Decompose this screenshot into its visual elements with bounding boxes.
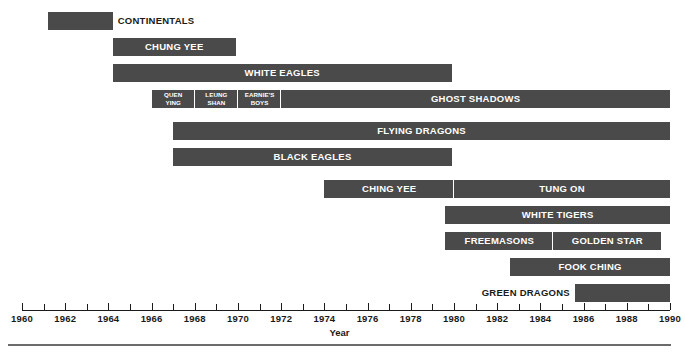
axis-tick-label: 1984 bbox=[520, 313, 560, 324]
axis-tick-minor bbox=[173, 304, 174, 310]
axis-tick-minor bbox=[44, 304, 45, 310]
x-axis: 1960196219641966196819701972197419761978… bbox=[0, 300, 679, 358]
axis-tick bbox=[108, 303, 109, 310]
axis-tick-label: 1962 bbox=[45, 313, 85, 324]
axis-tick-minor bbox=[432, 304, 433, 310]
timeline-bar-label: BLACK EAGLES bbox=[173, 148, 452, 166]
axis-tick-label: 1964 bbox=[88, 313, 128, 324]
axis-tick-minor bbox=[605, 304, 606, 310]
axis-tick-minor bbox=[519, 304, 520, 310]
timeline-row: WHITE EAGLES bbox=[0, 64, 679, 82]
timeline-row: FREEMASONSGOLDEN STAR bbox=[0, 232, 679, 250]
caption-divider bbox=[8, 344, 671, 346]
timeline-bar-label: EARNIE'SBOYS bbox=[238, 90, 281, 109]
timeline-bar-label: LEUNGSHAN bbox=[195, 90, 238, 109]
axis-tick bbox=[584, 303, 585, 310]
axis-tick-label: 1970 bbox=[218, 313, 258, 324]
timeline-bar-label: GOLDEN STAR bbox=[553, 232, 661, 250]
axis-tick-minor bbox=[130, 304, 131, 310]
timeline-row: FOOK CHING bbox=[0, 258, 679, 276]
axis-tick-minor bbox=[346, 304, 347, 310]
axis-tick bbox=[324, 303, 325, 310]
timeline-row: CONTINENTALS bbox=[0, 12, 679, 30]
timeline-bar-label: WHITE TIGERS bbox=[445, 206, 670, 224]
axis-tick-minor bbox=[648, 304, 649, 310]
axis-tick-minor bbox=[216, 304, 217, 310]
axis-tick-label: 1966 bbox=[132, 313, 172, 324]
axis-tick-minor bbox=[476, 304, 477, 310]
axis-tick bbox=[152, 303, 153, 310]
axis-tick bbox=[411, 303, 412, 310]
axis-tick-label: 1980 bbox=[434, 313, 474, 324]
axis-tick-minor bbox=[303, 304, 304, 310]
axis-tick-label: 1976 bbox=[348, 313, 388, 324]
axis-tick-label: 1990 bbox=[650, 313, 685, 324]
axis-tick bbox=[670, 303, 671, 310]
axis-tick bbox=[195, 303, 196, 310]
axis-line bbox=[22, 310, 670, 311]
axis-title: Year bbox=[0, 327, 679, 338]
axis-tick bbox=[238, 303, 239, 310]
axis-tick bbox=[65, 303, 66, 310]
axis-tick-minor bbox=[562, 304, 563, 310]
timeline-bar-label: FLYING DRAGONS bbox=[173, 122, 670, 140]
timeline-plot-area: CONTINENTALSCHUNG YEEWHITE EAGLESQUENYIN… bbox=[0, 0, 679, 300]
axis-tick-label: 1974 bbox=[304, 313, 344, 324]
axis-tick bbox=[22, 303, 23, 310]
axis-tick-label: 1978 bbox=[391, 313, 431, 324]
timeline-bar[interactable] bbox=[48, 12, 113, 30]
timeline-row: QUENYINGLEUNGSHANEARNIE'SBOYSGHOST SHADO… bbox=[0, 90, 679, 108]
timeline-bar-label: CHING YEE bbox=[324, 180, 454, 198]
axis-tick-label: 1982 bbox=[477, 313, 517, 324]
axis-tick-label: 1986 bbox=[564, 313, 604, 324]
timeline-row: FLYING DRAGONS bbox=[0, 122, 679, 140]
timeline-bar-label: FOOK CHING bbox=[510, 258, 670, 276]
axis-tick bbox=[497, 303, 498, 310]
axis-tick-minor bbox=[389, 304, 390, 310]
axis-tick-label: 1968 bbox=[175, 313, 215, 324]
timeline-bar-label: WHITE EAGLES bbox=[113, 64, 452, 82]
axis-tick bbox=[627, 303, 628, 310]
axis-tick bbox=[540, 303, 541, 310]
timeline-row: BLACK EAGLES bbox=[0, 148, 679, 166]
timeline-bar-label: GHOST SHADOWS bbox=[281, 90, 670, 108]
timeline-bar-label: CONTINENTALS bbox=[118, 12, 318, 30]
axis-tick-minor bbox=[87, 304, 88, 310]
timeline-bar-label: QUENYING bbox=[152, 90, 195, 109]
axis-tick bbox=[281, 303, 282, 310]
axis-tick-label: 1972 bbox=[261, 313, 301, 324]
timeline-row: CHUNG YEE bbox=[0, 38, 679, 56]
axis-tick bbox=[454, 303, 455, 310]
timeline-row: CHING YEETUNG ON bbox=[0, 180, 679, 198]
timeline-row: WHITE TIGERS bbox=[0, 206, 679, 224]
axis-tick-minor bbox=[260, 304, 261, 310]
axis-tick-label: 1960 bbox=[2, 313, 42, 324]
axis-tick bbox=[368, 303, 369, 310]
timeline-bar-label: FREEMASONS bbox=[445, 232, 553, 250]
axis-tick-label: 1988 bbox=[607, 313, 647, 324]
timeline-bar-label: CHUNG YEE bbox=[113, 38, 236, 56]
timeline-bar-label: TUNG ON bbox=[454, 180, 670, 198]
